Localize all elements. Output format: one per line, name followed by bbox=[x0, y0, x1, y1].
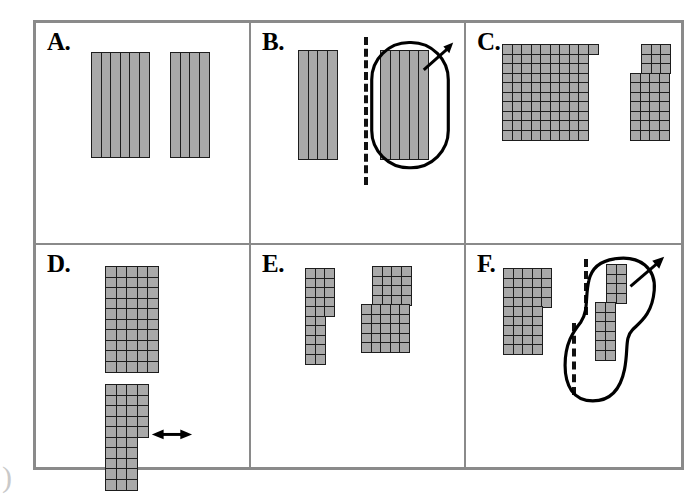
block-cell bbox=[532, 344, 543, 355]
annotation-overlay bbox=[251, 23, 464, 243]
panel-f-stage bbox=[466, 245, 681, 467]
block-row bbox=[362, 343, 411, 353]
block-cell bbox=[315, 354, 326, 365]
arrow-icon bbox=[630, 257, 664, 287]
panel-f[interactable]: F. bbox=[466, 245, 681, 467]
panel-a[interactable]: A. bbox=[36, 23, 251, 245]
block-cell bbox=[616, 293, 627, 304]
block-cell bbox=[588, 44, 599, 55]
panel-e-stage bbox=[251, 245, 464, 467]
right-step-block bbox=[631, 45, 671, 140]
right-step-block bbox=[362, 267, 411, 353]
dashed-divider-upper bbox=[584, 259, 588, 315]
left-grid-block bbox=[503, 45, 598, 140]
dashed-divider-lower bbox=[572, 323, 576, 395]
right-strip-block bbox=[171, 53, 209, 158]
block-row bbox=[631, 131, 671, 141]
block-row bbox=[106, 480, 148, 491]
left-strip-block bbox=[299, 51, 337, 160]
block-cell bbox=[605, 350, 616, 361]
panel-e[interactable]: E. bbox=[251, 245, 466, 467]
panel-d-stage bbox=[36, 245, 249, 467]
block-cell bbox=[578, 130, 589, 141]
block-cell bbox=[541, 297, 552, 308]
strip-cell bbox=[139, 52, 150, 158]
strip-cell bbox=[199, 52, 210, 158]
double-headed-arrow-icon bbox=[152, 430, 192, 440]
lower-step-block bbox=[106, 385, 148, 490]
panel-c[interactable]: C. bbox=[466, 23, 681, 245]
left-strip-block bbox=[92, 53, 149, 158]
panel-d[interactable]: D. bbox=[36, 245, 251, 467]
worksheet-frame: A. B. C. D. E. bbox=[33, 20, 684, 470]
upper-grid-block bbox=[106, 267, 159, 372]
block-cell bbox=[324, 306, 335, 317]
block-cell bbox=[126, 479, 138, 491]
right-step-block-circled bbox=[596, 265, 626, 360]
block-row bbox=[503, 131, 598, 141]
panel-grid: A. B. C. D. E. bbox=[36, 23, 681, 467]
strip-cell bbox=[418, 50, 429, 160]
worksheet-page: A. B. C. D. E. bbox=[0, 0, 700, 500]
block-row bbox=[106, 362, 159, 373]
block-cell bbox=[137, 426, 149, 438]
panel-a-stage bbox=[36, 23, 249, 243]
left-step-block bbox=[306, 269, 335, 364]
block-cell bbox=[399, 342, 410, 353]
stray-paren-mark: ) bbox=[2, 462, 12, 492]
block-cell bbox=[659, 130, 670, 141]
panel-c-stage bbox=[466, 23, 681, 243]
block-cell bbox=[147, 361, 159, 373]
right-strip-block-circled bbox=[381, 51, 429, 160]
strip-cell bbox=[327, 50, 338, 160]
panel-b-stage bbox=[251, 23, 464, 243]
dashed-divider bbox=[364, 37, 368, 185]
block-row bbox=[306, 355, 335, 365]
left-step-block bbox=[504, 269, 552, 355]
block-row bbox=[504, 345, 552, 355]
panel-b[interactable]: B. bbox=[251, 23, 466, 245]
block-row bbox=[596, 351, 626, 361]
